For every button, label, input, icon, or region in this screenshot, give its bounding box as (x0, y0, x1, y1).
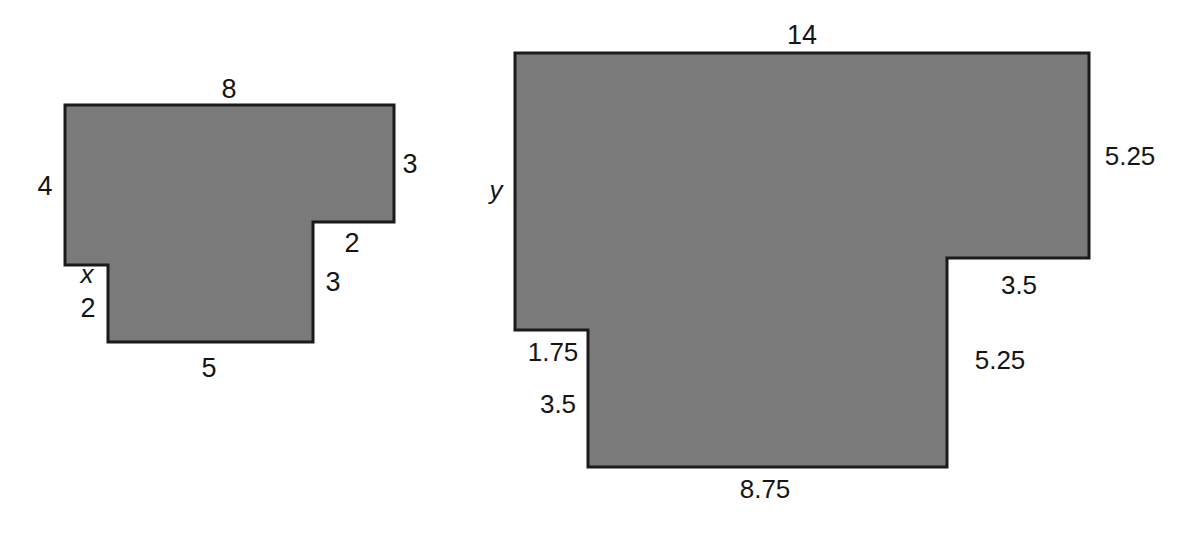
right-polygon-label-bottom: 8.75 (740, 476, 791, 502)
left-shape-polygon (65, 105, 394, 342)
left-polygon-label-right-upper: 3 (402, 151, 417, 178)
geometry-figure-canvas (0, 0, 1187, 534)
left-polygon-label-left-lower: 2 (80, 295, 95, 322)
right-polygon-label-top: 14 (787, 22, 817, 49)
left-polygon-label-right-lower: 3 (325, 269, 340, 296)
left-polygon-label-unknown-x: x (81, 261, 94, 287)
right-polygon-label-left-lower: 3.5 (540, 391, 576, 417)
right-polygon-label-right-upper: 5.25 (1105, 143, 1156, 169)
right-shape-polygon (515, 53, 1089, 467)
left-polygon-label-bottom: 5 (201, 355, 216, 382)
right-polygon-label-right-step: 3.5 (1001, 272, 1037, 298)
left-polygon-label-left: 4 (37, 173, 52, 200)
left-polygon-label-right-step: 2 (344, 230, 359, 257)
right-polygon-label-left: y (490, 177, 503, 203)
right-polygon-label-right-lower: 5.25 (975, 347, 1026, 373)
left-polygon-label-top: 8 (221, 76, 236, 103)
right-polygon-label-left-notch: 1.75 (528, 339, 579, 365)
